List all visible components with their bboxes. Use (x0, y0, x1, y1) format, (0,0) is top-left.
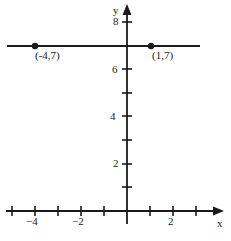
point-label-2: (1,7) (152, 49, 173, 62)
point-label-1: (-4,7) (35, 49, 60, 62)
x-tick-label-neg4: −4 (26, 215, 38, 227)
coordinate-plane: (-4,7) (1,7) y x 8 6 4 2 −4 −2 2 (0, 0, 231, 241)
x-tick-label-2: 2 (168, 215, 174, 227)
y-tick-label-8: 8 (113, 15, 119, 27)
y-tick-label-2: 2 (113, 157, 119, 169)
y-axis-arrow-icon (123, 4, 132, 15)
x-axis-arrow-icon (213, 207, 224, 216)
y-tick-label-4: 4 (110, 110, 116, 122)
x-axis-label: x (217, 217, 223, 229)
x-tick-label-neg2: −2 (72, 215, 84, 227)
y-tick-label-6: 6 (112, 63, 118, 75)
